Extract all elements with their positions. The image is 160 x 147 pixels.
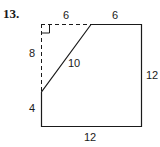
- label-dashed-8: 8: [29, 48, 35, 59]
- label-left-4: 4: [29, 103, 35, 114]
- label-top-left-6: 6: [63, 10, 69, 21]
- label-right-12: 12: [146, 70, 158, 81]
- right-angle-marker: [42, 25, 50, 34]
- pentagon-outline: [42, 25, 142, 127]
- label-top-right-6: 6: [112, 10, 118, 21]
- label-bottom-12: 12: [84, 132, 96, 143]
- label-diagonal-10: 10: [68, 58, 80, 69]
- geometry-figure: [0, 0, 160, 147]
